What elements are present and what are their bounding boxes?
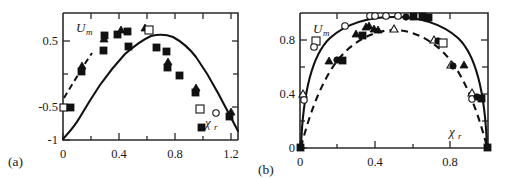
panel-a-ytick-0-5: 0.5: [42, 34, 58, 48]
panel-b-xlabel-sub: r: [458, 131, 462, 141]
panel-a-y-axis-label: U m: [76, 20, 93, 37]
panel-b-ytick-0-8: 0.8: [279, 33, 295, 47]
panel-a-ytick-neg1: -1: [48, 133, 58, 147]
panel-a-label: (a): [8, 154, 23, 169]
panel-b-ylabel-sub: m: [323, 28, 330, 38]
panel-b-label: (b): [258, 162, 274, 177]
panel-b-xtick-0-8: 0.8: [442, 155, 458, 169]
figure-container: 0.5 -0.5 -1 0 0.4 0.8 1.2 U m χ r: [0, 0, 507, 179]
panel-b-ytick-0: 0: [289, 141, 295, 155]
panel-b-ytick-0-4: 0.4: [279, 87, 295, 101]
panel-a-y-ticks: [63, 41, 238, 140]
panel-b-y-axis-label: U m: [313, 21, 330, 38]
panel-a-xtick-0-8: 0.8: [167, 147, 183, 161]
panel-a-xtick-1-2: 1.2: [223, 147, 239, 161]
panel-b-dashed-curve: [301, 30, 487, 147]
two-panel-scientific-figure: 0.5 -0.5 -1 0 0.4 0.8 1.2 U m χ r: [0, 0, 507, 179]
panel-a-xtick-0: 0: [60, 147, 66, 161]
panel-b-xlabel-chi: χ: [447, 124, 455, 139]
panel-a-solid-curve: [63, 35, 238, 139]
panel-b-xtick-0: 0: [297, 155, 303, 169]
panel-b: 0.8 0.4 0 0 0.4 0.8 U m χ r: [258, 13, 491, 177]
panel-a: 0.5 -0.5 -1 0 0.4 0.8 1.2 U m χ r: [8, 13, 239, 169]
panel-b-xtick-0-4: 0.4: [367, 155, 383, 169]
panel-b-x-axis-label: χ r: [447, 124, 462, 141]
panel-a-xtick-0-4: 0.4: [111, 147, 127, 161]
panel-a-xlabel-sub: r: [214, 122, 218, 132]
panel-a-dashed-segment: [64, 53, 92, 98]
panel-a-ylabel-sub: m: [86, 27, 93, 37]
panel-a-ytick-neg0-5: -0.5: [38, 100, 58, 114]
